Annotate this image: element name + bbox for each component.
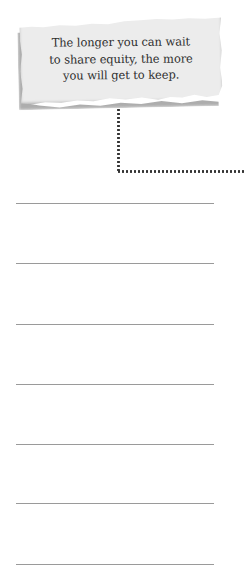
writing-line-3[interactable] bbox=[16, 324, 214, 325]
note-text: The longer you can wait to share equity,… bbox=[20, 33, 222, 84]
writing-line-7[interactable] bbox=[16, 564, 214, 565]
writing-line-4[interactable] bbox=[16, 384, 214, 385]
dotted-connector-horizontal bbox=[117, 170, 244, 173]
dotted-connector-vertical bbox=[117, 108, 120, 172]
writing-line-2[interactable] bbox=[16, 263, 214, 264]
writing-line-5[interactable] bbox=[16, 444, 214, 445]
writing-line-1[interactable] bbox=[16, 203, 214, 204]
note-line-1: The longer you can wait bbox=[20, 33, 222, 51]
note-line-2: to share equity, the more bbox=[20, 50, 222, 68]
note-line-3: you will get to keep. bbox=[20, 66, 222, 84]
writing-line-6[interactable] bbox=[16, 503, 214, 504]
